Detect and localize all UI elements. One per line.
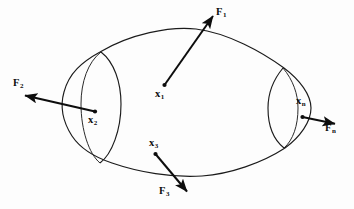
cross-section-right-front <box>268 68 284 148</box>
label-force-n-subscript: n <box>332 127 336 135</box>
force-arrow-f1 <box>165 16 214 85</box>
label-force-2: F2 <box>13 78 23 89</box>
label-point-n-subscript: n <box>302 100 306 108</box>
label-force-3: F3 <box>159 186 169 197</box>
label-force-n-symbol: F <box>325 122 332 133</box>
label-point-3: x3 <box>149 138 158 149</box>
label-point-3-subscript: 3 <box>155 142 159 150</box>
force-arrow-f2 <box>25 96 95 112</box>
label-point-n: xn <box>296 96 306 107</box>
point-dot-xn <box>300 115 304 119</box>
label-force-n: Fn <box>325 123 336 134</box>
body-outline <box>62 28 311 176</box>
label-point-3-symbol: x <box>149 137 154 148</box>
label-point-2-subscript: 2 <box>94 119 98 127</box>
figure-canvas: F1 F2 F3 Fn x1 x2 x3 xn <box>0 0 354 209</box>
label-point-2: x2 <box>88 115 97 126</box>
label-force-3-subscript: 3 <box>166 190 170 198</box>
cross-section-left-front <box>100 52 121 163</box>
cross-section-right-back <box>283 68 298 148</box>
label-force-2-subscript: 2 <box>20 82 24 90</box>
label-point-1-symbol: x <box>155 88 160 99</box>
point-dot-x2 <box>93 109 97 113</box>
label-point-2-symbol: x <box>88 114 93 125</box>
label-point-1-subscript: 1 <box>161 93 165 101</box>
label-force-1: F1 <box>216 7 226 18</box>
point-dot-x1 <box>162 83 166 87</box>
label-force-1-symbol: F <box>216 6 223 17</box>
label-force-1-subscript: 1 <box>223 11 227 19</box>
label-force-3-symbol: F <box>159 185 166 196</box>
label-point-n-symbol: x <box>296 95 301 106</box>
cross-section-left-back <box>81 52 101 163</box>
point-dot-x3 <box>153 152 157 156</box>
label-force-2-symbol: F <box>13 77 20 88</box>
label-point-1: x1 <box>155 89 164 100</box>
